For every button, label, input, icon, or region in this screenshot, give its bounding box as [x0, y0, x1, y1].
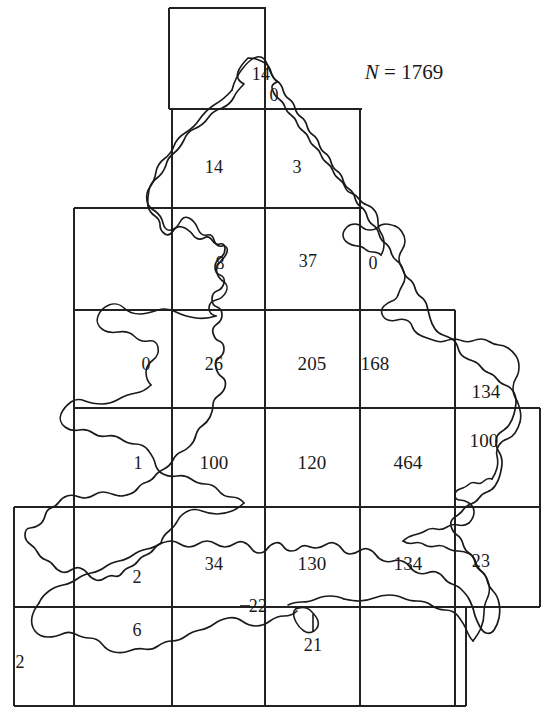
cell-count-north-yorkshire: 3 — [292, 157, 301, 178]
cell-count-kent: 23 — [472, 551, 490, 572]
cell-count-midlands-south: 120 — [297, 452, 326, 474]
devon-north-coast — [39, 543, 161, 603]
figure-map-panel: N = 1769 1401438370026205168134110012046… — [0, 0, 548, 722]
coastline-main — [25, 58, 516, 633]
coastline-outline — [25, 58, 516, 633]
cell-count-devon: 6 — [132, 620, 141, 641]
cell-count-cheshire: 26 — [205, 354, 223, 375]
cell-count-northumberland-east: 0 — [269, 85, 278, 106]
wash-west — [382, 295, 418, 334]
cell-count-midlands-north: 205 — [297, 353, 326, 375]
thames-north-shore — [403, 523, 469, 541]
coastline-detail — [32, 57, 521, 653]
solent-shore — [288, 596, 344, 605]
cell-count-yorkshire: 37 — [299, 251, 317, 272]
north-wales-coast — [97, 304, 216, 385]
cornwall-coast — [32, 603, 172, 653]
essex-coast — [455, 479, 492, 523]
cell-count-london-home-counties: 464 — [393, 452, 422, 474]
cell-count-humberside: 0 — [368, 253, 377, 274]
cell-count-east-anglia-south: 100 — [469, 430, 498, 452]
total-value: 1769 — [401, 60, 443, 84]
sussex-kent-coast — [344, 595, 473, 641]
pembroke-coast — [148, 450, 244, 503]
cell-count-north-wales-coast: 0 — [141, 354, 150, 375]
cell-count-sussex-kent-inland: 134 — [393, 553, 422, 575]
cell-count-lancashire: 8 — [215, 253, 224, 274]
total-equals: = — [384, 60, 396, 84]
cell-count-somerset-avon: 34 — [205, 554, 223, 575]
cell-count-welsh-border: 100 — [199, 452, 228, 474]
south-devon-coast — [172, 611, 297, 641]
severn-estuary — [161, 503, 244, 543]
map-graphic — [0, 0, 548, 722]
cell-count-northumberland-coast: 14 — [252, 64, 270, 85]
cell-count-isle-of-wight: 21 — [304, 635, 322, 656]
cell-count-east-anglia-north: 134 — [471, 381, 500, 403]
humber-estuary — [343, 224, 395, 255]
grid-lines — [14, 8, 540, 706]
cell-count-wessex: 130 — [297, 553, 326, 575]
cell-count-dorset-coast: 22 — [249, 596, 267, 617]
total-count-annotation: N = 1769 — [365, 60, 443, 85]
total-symbol: N — [365, 60, 379, 84]
cell-count-cornwall: 2 — [15, 652, 24, 673]
cell-count-south-wales: 2 — [132, 567, 141, 588]
cell-count-cumbria-durham: 14 — [205, 157, 223, 178]
cell-count-wales-mid: 1 — [133, 453, 142, 474]
cell-count-lincolnshire: 168 — [360, 353, 389, 375]
